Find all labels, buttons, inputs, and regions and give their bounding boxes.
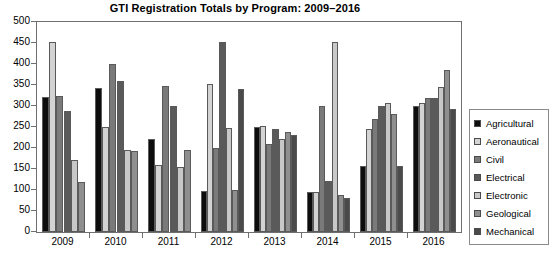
bar bbox=[124, 150, 131, 232]
y-tick-label: 100 bbox=[0, 184, 30, 194]
bar bbox=[102, 127, 109, 232]
legend-swatch-icon bbox=[474, 192, 481, 199]
bar bbox=[64, 111, 71, 232]
bar bbox=[177, 167, 184, 232]
y-tick-label: 450 bbox=[0, 37, 30, 47]
legend-label: Electrical bbox=[486, 172, 525, 183]
y-tick-label: 300 bbox=[0, 100, 30, 110]
bar bbox=[95, 88, 102, 232]
y-tick-label: 200 bbox=[0, 142, 30, 152]
bar bbox=[344, 198, 350, 232]
legend-item-electrical[interactable]: Electrical bbox=[474, 168, 545, 186]
bar bbox=[155, 165, 162, 232]
x-tick-label: 2013 bbox=[263, 236, 285, 247]
bar bbox=[56, 96, 63, 233]
legend-item-agricultural[interactable]: Agricultural bbox=[474, 114, 545, 132]
legend-item-civil[interactable]: Civil bbox=[474, 150, 545, 168]
x-tick-label: 2015 bbox=[369, 236, 391, 247]
legend-item-geological[interactable]: Geological bbox=[474, 204, 545, 222]
bar bbox=[49, 42, 56, 232]
bar bbox=[397, 166, 403, 232]
legend-swatch-icon bbox=[474, 210, 481, 217]
bar bbox=[162, 86, 169, 232]
bar bbox=[131, 151, 138, 232]
legend-label: Civil bbox=[486, 154, 504, 165]
x-tick-label: 2014 bbox=[316, 236, 338, 247]
y-tick-label: 50 bbox=[0, 205, 30, 215]
legend-item-electronic[interactable]: Electronic bbox=[474, 186, 545, 204]
x-tick-label: 2010 bbox=[104, 236, 126, 247]
bar bbox=[78, 182, 85, 232]
x-axis-labels: 20092010201120122013201420152016 bbox=[36, 236, 462, 252]
bar bbox=[148, 139, 155, 232]
legend-item-mechanical[interactable]: Mechanical bbox=[474, 222, 545, 240]
x-tick-label: 2012 bbox=[210, 236, 232, 247]
bar bbox=[291, 135, 297, 232]
bar bbox=[117, 81, 124, 232]
y-tick-label: 0 bbox=[0, 226, 30, 236]
plot-area bbox=[36, 21, 462, 233]
bar bbox=[71, 160, 78, 232]
bar bbox=[238, 89, 244, 232]
bar-chart: GTI Registration Totals by Program: 2009… bbox=[0, 0, 551, 257]
chart-legend: AgriculturalAeronauticalCivilElectricalE… bbox=[469, 109, 549, 245]
bar bbox=[109, 64, 116, 232]
y-tick-label: 250 bbox=[0, 121, 30, 131]
legend-label: Geological bbox=[486, 208, 531, 219]
legend-swatch-icon bbox=[474, 156, 481, 163]
legend-label: Agricultural bbox=[486, 118, 534, 129]
legend-label: Mechanical bbox=[486, 226, 534, 237]
legend-item-aeronautical[interactable]: Aeronautical bbox=[474, 132, 545, 150]
bar bbox=[42, 97, 49, 232]
y-tick-label: 150 bbox=[0, 163, 30, 173]
legend-label: Aeronautical bbox=[486, 136, 539, 147]
legend-swatch-icon bbox=[474, 120, 481, 127]
legend-label: Electronic bbox=[486, 190, 528, 201]
legend-swatch-icon bbox=[474, 174, 481, 181]
x-tick-label: 2009 bbox=[51, 236, 73, 247]
x-tick-label: 2011 bbox=[158, 236, 180, 247]
chart-title: GTI Registration Totals by Program: 2009… bbox=[0, 2, 470, 14]
y-tick-label: 500 bbox=[0, 16, 30, 26]
y-axis-labels: 050100150200250300350400450500 bbox=[0, 21, 30, 233]
bar bbox=[184, 150, 191, 232]
legend-swatch-icon bbox=[474, 228, 481, 235]
x-tick-label: 2016 bbox=[422, 236, 444, 247]
legend-swatch-icon bbox=[474, 138, 481, 145]
bar bbox=[450, 109, 456, 232]
y-tick-label: 350 bbox=[0, 79, 30, 89]
y-tick-label: 400 bbox=[0, 58, 30, 68]
bar bbox=[170, 106, 177, 232]
